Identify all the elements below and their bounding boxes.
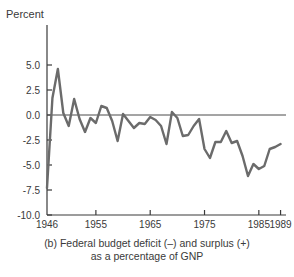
svg-text:1985: 1985 (248, 219, 271, 230)
svg-text:-2.5: -2.5 (23, 135, 41, 146)
x-axis-tick-labels: 194619551965197519851989 (36, 219, 292, 230)
budget-deficit-chart-figure: Percent 5.02.50.0-2.5-5.0-7.5-10.0 19461… (0, 0, 294, 277)
svg-text:-5.0: -5.0 (23, 160, 41, 171)
y-axis-tick-labels: 5.02.50.0-2.5-5.0-7.5-10.0 (17, 60, 40, 221)
svg-text:2.5: 2.5 (26, 85, 40, 96)
chart-plot-area: 5.02.50.0-2.5-5.0-7.5-10.0 1946195519651… (0, 0, 294, 237)
svg-text:1989: 1989 (269, 219, 292, 230)
svg-text:1975: 1975 (193, 219, 216, 230)
figure-caption: (b) Federal budget deficit (–) and surpl… (0, 237, 294, 263)
caption-line-2: as a percentage of GNP (0, 250, 294, 263)
svg-text:5.0: 5.0 (26, 60, 40, 71)
svg-text:-7.5: -7.5 (23, 185, 41, 196)
deficit-surplus-line (47, 69, 281, 188)
svg-text:1946: 1946 (36, 219, 59, 230)
svg-text:0.0: 0.0 (26, 110, 40, 121)
x-axis-tick-marks (96, 210, 281, 215)
caption-line-1: (b) Federal budget deficit (–) and surpl… (0, 237, 294, 250)
svg-text:1955: 1955 (85, 219, 108, 230)
svg-text:1965: 1965 (139, 219, 162, 230)
